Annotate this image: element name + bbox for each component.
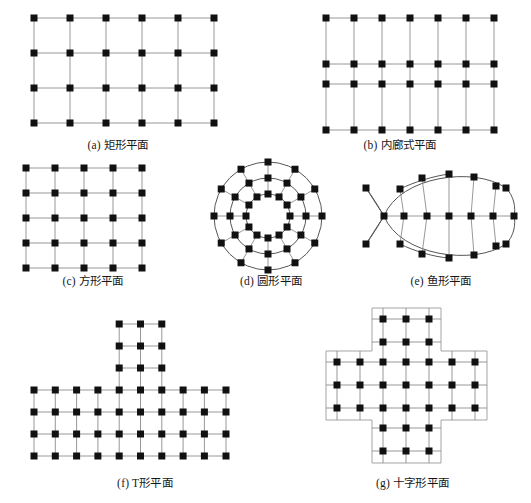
caption-f: (f) T形平面 [10, 476, 280, 490]
caption-b: (b) 内廊式平面 [300, 138, 500, 152]
caption-c: (c) 方形平面 [8, 274, 178, 288]
figure-panel-f-tshape: (f) T形平面 [10, 312, 280, 500]
diagram-b-gridlines [326, 18, 494, 130]
diagram-c-square-grid [8, 158, 178, 273]
diagram-a-nodes [31, 15, 218, 127]
diagram-g-cross-grid [300, 300, 525, 475]
figure-panel-a-rectangular: (a) 矩形平面 [18, 6, 218, 156]
diagram-f-t-grid [10, 312, 280, 472]
diagram-a-gridlines [34, 18, 214, 123]
caption-a: (a) 矩形平面 [18, 138, 218, 152]
figure-sheet: (a) 矩形平面 (b) [0, 0, 531, 503]
diagram-a-rectangular-grid [18, 6, 218, 136]
diagram-d-nodes [211, 159, 326, 274]
figure-panel-d-circular: (d) 圆形平面 [196, 158, 346, 298]
caption-e: (e) 鱼形平面 [356, 274, 526, 288]
caption-d: (d) 圆形平面 [196, 274, 346, 288]
caption-g: (g) 十字形平面 [300, 476, 525, 490]
figure-panel-c-square: (c) 方形平面 [8, 158, 178, 298]
diagram-d-radial-grid [196, 158, 346, 273]
diagram-f-gridlines [34, 324, 226, 456]
diagram-e-fish-plan [356, 158, 526, 273]
figure-panel-b-corridor: (b) 内廊式平面 [300, 6, 500, 156]
figure-panel-g-cross: (g) 十字形平面 [300, 300, 525, 500]
figure-panel-e-fish: (e) 鱼形平面 [356, 158, 526, 298]
diagram-b-corridor-grid [300, 6, 500, 136]
